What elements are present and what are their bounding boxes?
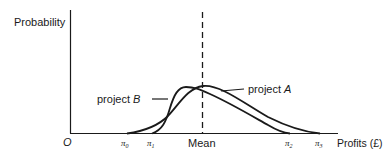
y-axis-label: Probability [14, 16, 66, 28]
pi0-label: π0 [121, 138, 129, 149]
pi3-label: π3 [315, 138, 323, 149]
project-a-leader-line [221, 89, 244, 91]
pi1-label: π1 [147, 138, 155, 149]
mean-label: Mean [188, 137, 216, 149]
pi2-label: π2 [285, 138, 293, 149]
probability-distribution-diagram: Probability O π0 π1 Mean π2 π3 Profits (… [0, 0, 392, 155]
origin-label: O [63, 136, 72, 148]
project-b-label: project B [97, 93, 140, 105]
project-a-label: project A [248, 83, 291, 95]
x-axis-label: Profits (£) [337, 137, 383, 149]
